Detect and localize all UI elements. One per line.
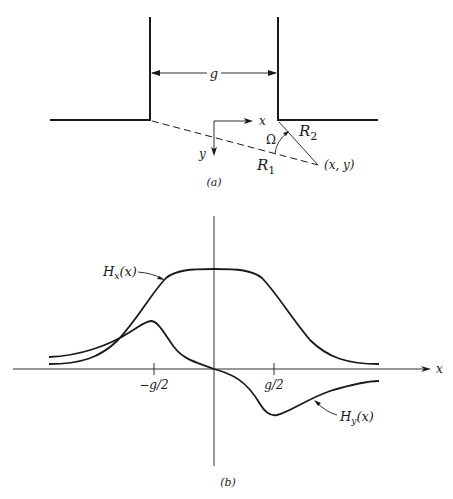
- gap-dimension: g: [151, 66, 277, 81]
- gap-label: g: [210, 66, 218, 81]
- axis-x-label: x: [259, 114, 266, 128]
- r1-label: R1: [256, 156, 275, 177]
- r2-label: R2: [298, 122, 317, 143]
- point-label: (x, y): [324, 158, 355, 172]
- arrowhead-left: [151, 70, 160, 76]
- coordinate-axes: x y: [198, 114, 266, 161]
- figure: g x y Ω R2 R1 (x, y) (a) x −g/2: [0, 0, 453, 499]
- hy-label: Hy(x): [339, 409, 374, 426]
- hx-label: Hx(x): [102, 264, 137, 281]
- right-pole-piece: [278, 17, 378, 120]
- arrowhead-right: [268, 70, 277, 76]
- tick-label-minus-half-g: −g/2: [139, 378, 168, 392]
- figure-b: x −g/2 g/2 Hx(x) Hy(x) (b): [13, 216, 443, 489]
- left-pole-piece: [50, 17, 150, 120]
- x-axis-label: x: [436, 362, 443, 376]
- caption-b: (b): [220, 476, 236, 489]
- angle-label: Ω: [266, 133, 276, 147]
- r1-line: [152, 121, 318, 165]
- figure-a: g x y Ω R2 R1 (x, y) (a): [50, 17, 378, 189]
- tick-label-half-g: g/2: [264, 378, 283, 392]
- caption-a: (a): [206, 176, 221, 189]
- axis-y-label: y: [198, 147, 206, 161]
